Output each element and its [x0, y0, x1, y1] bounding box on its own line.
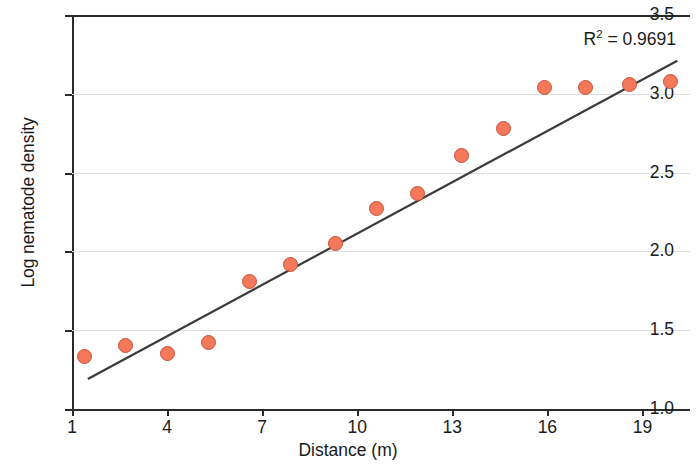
data-point [578, 80, 593, 95]
r-squared-prefix: R [584, 29, 597, 49]
x-tick-label: 16 [538, 417, 557, 438]
x-tick-mark [167, 409, 169, 416]
y-tick-mark [65, 94, 72, 96]
x-tick-mark [547, 409, 549, 416]
x-tick-label: 4 [162, 417, 172, 438]
x-axis-label: Distance (m) [0, 440, 696, 461]
data-point [201, 335, 216, 350]
y-axis-label: Log nematode density [18, 83, 39, 323]
data-point [328, 236, 343, 251]
y-tick-mark [65, 251, 72, 253]
x-tick-mark [452, 409, 454, 416]
data-point [283, 257, 298, 272]
x-tick-mark [357, 409, 359, 416]
x-tick-mark [262, 409, 264, 416]
x-tick-mark [642, 409, 644, 416]
x-tick-label: 7 [257, 417, 267, 438]
data-point [454, 148, 469, 163]
y-tick-mark [65, 173, 72, 175]
scatter-chart-figure: Log nematode density Distance (m) 1.01.5… [0, 0, 696, 467]
data-point [410, 186, 425, 201]
r-squared-suffix: = 0.9691 [603, 29, 676, 49]
x-tick-label: 1 [67, 417, 77, 438]
axis-spine-bottom [72, 409, 690, 411]
x-tick-label: 13 [443, 417, 462, 438]
data-point [496, 121, 511, 136]
x-tick-mark [72, 409, 74, 416]
data-point [160, 346, 175, 361]
data-point [369, 201, 384, 216]
x-tick-label: 19 [633, 417, 652, 438]
x-tick-label: 10 [347, 417, 366, 438]
y-tick-mark [65, 409, 72, 411]
data-point [537, 80, 552, 95]
y-tick-mark [65, 330, 72, 332]
y-tick-mark [65, 15, 72, 17]
plot-area: 1.01.52.02.53.03.5 14710131619 R2 = 0.96… [72, 15, 690, 409]
r-squared-annotation: R2 = 0.9691 [584, 28, 677, 50]
data-point [242, 274, 257, 289]
